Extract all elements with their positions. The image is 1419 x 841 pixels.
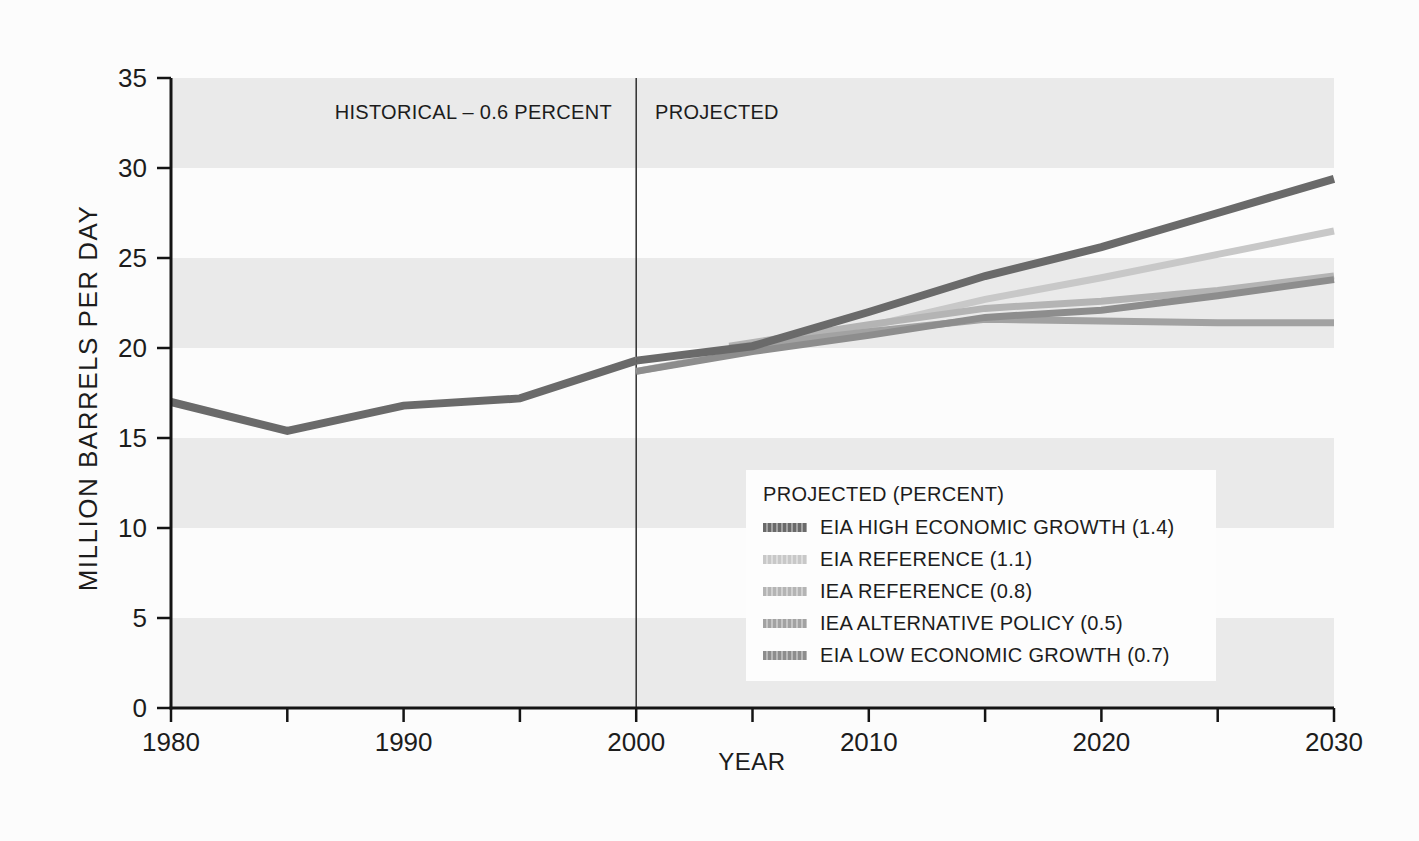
legend-swatch-iea_alternative_policy	[763, 619, 807, 628]
legend-rows: EIA HIGH ECONOMIC GROWTH (1.4)EIA REFERE…	[763, 516, 1216, 666]
legend-row-eia_high: EIA HIGH ECONOMIC GROWTH (1.4)	[763, 516, 1216, 538]
projected-annotation: PROJECTED	[655, 100, 779, 124]
chart-figure: 05101520253035198019902000201020202030 M…	[0, 0, 1419, 841]
x-tick-label: 1990	[375, 727, 433, 757]
legend-row-iea_reference: IEA REFERENCE (0.8)	[763, 580, 1216, 602]
legend-label-eia_high: EIA HIGH ECONOMIC GROWTH (1.4)	[820, 516, 1175, 538]
y-tick-label: 20	[118, 333, 147, 363]
legend-label-eia_reference: EIA REFERENCE (1.1)	[820, 548, 1032, 570]
y-tick-label: 0	[133, 693, 147, 723]
legend-swatch-iea_reference	[763, 587, 807, 596]
y-tick-label: 10	[118, 513, 147, 543]
y-tick-label: 5	[133, 603, 147, 633]
legend-row-iea_alternative_policy: IEA ALTERNATIVE POLICY (0.5)	[763, 612, 1216, 634]
x-tick-label: 2030	[1305, 727, 1363, 757]
legend-row-eia_reference: EIA REFERENCE (1.1)	[763, 548, 1216, 570]
liquid-fuels-demand-chart: 05101520253035198019902000201020202030	[0, 0, 1419, 841]
x-tick-label: 1980	[142, 727, 200, 757]
legend-row-eia_low: EIA LOW ECONOMIC GROWTH (0.7)	[763, 644, 1216, 666]
y-tick-label: 35	[118, 63, 147, 93]
historical-annotation: HISTORICAL – 0.6 PERCENT	[335, 100, 612, 124]
legend-label-eia_low: EIA LOW ECONOMIC GROWTH (0.7)	[820, 644, 1170, 666]
series-line-historical	[171, 361, 636, 431]
legend-label-iea_alternative_policy: IEA ALTERNATIVE POLICY (0.5)	[820, 612, 1123, 634]
legend-swatch-eia_reference	[763, 555, 807, 564]
legend: PROJECTED (PERCENT) EIA HIGH ECONOMIC GR…	[746, 470, 1216, 681]
legend-title: PROJECTED (PERCENT)	[763, 483, 1216, 505]
legend-swatch-eia_low	[763, 651, 807, 660]
y-tick-label: 25	[118, 243, 147, 273]
x-tick-label: 2010	[840, 727, 898, 757]
y-tick-label: 30	[118, 153, 147, 183]
y-axis-title: MILLION BARRELS PER DAY	[73, 205, 104, 592]
x-tick-label: 2020	[1072, 727, 1130, 757]
x-tick-label: 2000	[607, 727, 665, 757]
x-axis-title: YEAR	[718, 748, 785, 776]
legend-swatch-eia_high	[763, 523, 807, 532]
legend-label-iea_reference: IEA REFERENCE (0.8)	[820, 580, 1032, 602]
y-tick-label: 15	[118, 423, 147, 453]
